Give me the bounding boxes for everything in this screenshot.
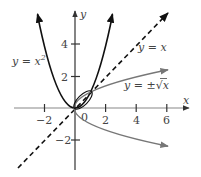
function-plot: −2 0 2 4 6 4 2 −2 y x y = x2 y = x y = ±…: [0, 0, 201, 177]
sqrt-label: y = ±√x: [123, 79, 170, 92]
parabola-arrow-right: [111, 14, 113, 22]
parabola-arrow-left: [38, 14, 40, 22]
sqrt-label-prefix: y = ±: [123, 79, 156, 92]
sqrt-arrow-upper: [160, 70, 168, 72]
parabola-label: y = x2: [11, 53, 46, 68]
y-tick-label-2: 2: [61, 71, 68, 84]
y-axis-label: y: [79, 8, 87, 21]
sqrt-arrow-lower: [160, 145, 168, 147]
x-tick-label-6: 6: [163, 114, 170, 127]
y-tick-label-4: 4: [61, 38, 68, 51]
sqrt-label-arg: x: [163, 79, 170, 92]
x-tick-label-m2: −2: [36, 114, 52, 127]
x-tick-label-2: 2: [102, 114, 109, 127]
x-axis-label: x: [183, 94, 190, 107]
x-tick-label-4: 4: [133, 114, 140, 127]
line-label: y = x: [137, 41, 167, 54]
y-tick-label-m2: −2: [55, 134, 71, 147]
parabola-label-text: y = x: [11, 55, 41, 68]
parabola-label-exponent: 2: [40, 53, 46, 62]
